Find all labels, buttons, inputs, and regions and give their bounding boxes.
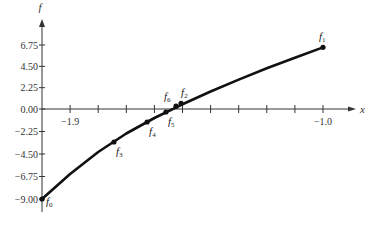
y-tick-label: −2.25 — [15, 126, 38, 137]
point-label-subscript: 6 — [167, 96, 171, 104]
y-tick-label: 0.00 — [21, 104, 39, 115]
data-point-f2 — [178, 101, 183, 106]
point-label-f3: f3 — [116, 145, 123, 159]
point-label-subscript: 4 — [152, 131, 156, 139]
point-label-subscript: 0 — [49, 201, 53, 209]
point-label-f1: f1 — [319, 30, 326, 44]
point-label-subscript: 1 — [322, 36, 326, 44]
data-point-f4 — [144, 119, 149, 124]
curve — [42, 47, 323, 199]
y-tick-label: 6.75 — [21, 40, 39, 51]
x-tick-label: −1.9 — [61, 116, 79, 127]
y-tick-label: −6.75 — [15, 171, 38, 182]
data-point-f0 — [39, 196, 44, 201]
y-tick-label: 4.50 — [21, 61, 39, 72]
y-tick-label: −4.50 — [15, 149, 38, 160]
data-point-f5 — [163, 109, 168, 114]
data-point-f3 — [111, 139, 116, 144]
point-label-f5: f5 — [168, 115, 175, 129]
axes: fx−1.9−1.06.754.502.250.00−2.25−4.50−6.7… — [15, 1, 365, 212]
point-label-subscript: 5 — [171, 121, 175, 129]
y-axis-label: f — [38, 1, 43, 13]
point-label-f2: f2 — [181, 86, 188, 100]
x-axis-arrow-icon — [348, 107, 356, 112]
point-label-subscript: 3 — [119, 151, 123, 159]
point-label-f4: f4 — [149, 125, 156, 139]
function-curve — [42, 47, 323, 199]
chart: fx−1.9−1.06.754.502.250.00−2.25−4.50−6.7… — [0, 0, 374, 225]
data-points: f0f1f2f3f4f5f6 — [39, 30, 326, 209]
x-tick-label: −1.0 — [314, 116, 332, 127]
y-tick-label: 2.25 — [21, 82, 39, 93]
y-axis-arrow-icon — [39, 19, 45, 27]
data-point-f1 — [320, 45, 325, 50]
point-label-f0: f0 — [46, 195, 53, 209]
point-label-subscript: 2 — [184, 92, 188, 100]
data-point-f6 — [173, 104, 178, 109]
x-axis-label: x — [359, 103, 365, 115]
point-label-f6: f6 — [164, 90, 171, 104]
y-tick-label: −9.00 — [15, 194, 38, 205]
